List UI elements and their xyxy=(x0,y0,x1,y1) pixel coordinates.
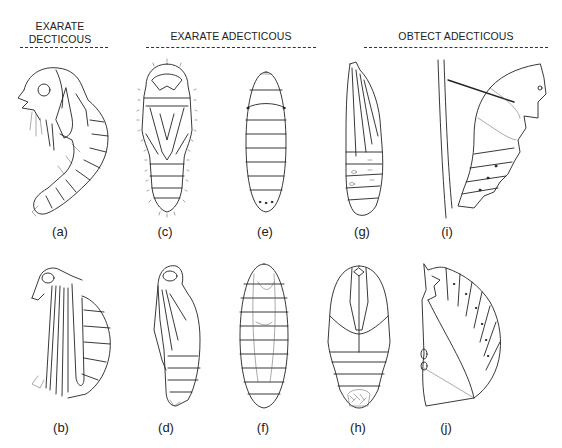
group-title-obtect-adecticous: OBTECT ADECTICOUS xyxy=(366,30,546,43)
pupa-illustration-c xyxy=(138,60,196,218)
group-title-line1: OBTECT ADECTICOUS xyxy=(366,30,546,43)
group-divider-exarate-decticous xyxy=(20,47,108,48)
panel-label-i: (i) xyxy=(441,224,453,239)
panel-label-h: (h) xyxy=(350,420,366,435)
group-title-line1: EXARATE xyxy=(18,20,102,33)
pupa-illustration-h xyxy=(324,262,394,412)
panel-label-a: (a) xyxy=(52,224,68,239)
panel-label-e: (e) xyxy=(257,224,273,239)
chrysalis-illustration-i xyxy=(434,58,554,218)
puparium-illustration-e xyxy=(244,70,288,215)
group-divider-obtect-adecticous xyxy=(364,47,548,48)
pupa-illustration-d xyxy=(150,260,202,410)
group-divider-exarate-adecticous xyxy=(146,47,316,48)
group-title-exarate-adecticous: EXARATE ADECTICOUS xyxy=(146,30,316,43)
pupa-illustration-g xyxy=(338,60,386,220)
panel-label-b: (b) xyxy=(53,420,69,435)
panel-label-c: (c) xyxy=(157,224,172,239)
group-title-line1: EXARATE ADECTICOUS xyxy=(146,30,316,43)
group-title-exarate-decticous: EXARATE DECTICOUS xyxy=(18,20,102,46)
pupa-illustration-b xyxy=(22,258,112,408)
panel-label-d: (d) xyxy=(158,420,174,435)
pupa-illustration-a xyxy=(10,60,110,220)
puparium-illustration-f xyxy=(238,262,290,412)
panel-label-f: (f) xyxy=(257,420,269,435)
group-title-line2: DECTICOUS xyxy=(18,33,102,46)
pupa-illustration-j xyxy=(418,260,502,410)
panel-label-j: (j) xyxy=(440,420,452,435)
panel-label-g: (g) xyxy=(354,224,370,239)
